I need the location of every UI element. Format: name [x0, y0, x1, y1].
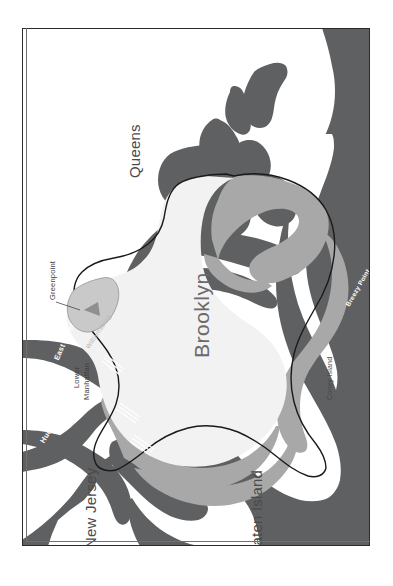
- label-coney-island: Coney Island: [326, 357, 333, 400]
- label-queens: Queens: [126, 124, 143, 178]
- map-plate: Queens Brooklyn New Jersey Staten Island…: [22, 28, 370, 546]
- label-staten-island: Staten Island: [248, 470, 265, 546]
- label-brooklyn: Brooklyn: [190, 272, 214, 358]
- label-new-jersey: New Jersey: [82, 468, 99, 546]
- label-lower-manhattan-line1: Lower: [72, 367, 81, 388]
- label-lower-manhattan-line2: Manhattan: [82, 363, 91, 400]
- label-greenpoint: Greenpoint: [48, 261, 57, 300]
- brooklyn-reference-map: Queens Brooklyn New Jersey Staten Island…: [0, 0, 393, 586]
